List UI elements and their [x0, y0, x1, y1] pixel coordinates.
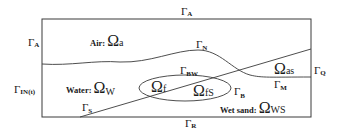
- region-wet-sand-label: Wet sand:ΩWS: [220, 99, 286, 116]
- boundary-inflow-label: ΓIN(t): [14, 83, 36, 96]
- boundary-right-label: ΓQ: [314, 64, 326, 77]
- interface-b-label: ΓB: [234, 85, 245, 100]
- boundary-bottom-label: ΓR: [185, 117, 197, 130]
- region-fish-sand-label: ΩfS: [193, 82, 214, 99]
- region-air-sand-label: Ωas: [274, 60, 294, 77]
- boundary-top-label: ΓA: [181, 5, 192, 18]
- interface-n-label: ΓN: [196, 38, 207, 52]
- interface-m-label: ΓM: [274, 78, 287, 92]
- region-water-label: Water:ΩW: [66, 79, 115, 97]
- boundary-left-top-label: ΓA: [28, 36, 39, 49]
- region-fish-label: Ωf: [151, 78, 167, 95]
- interface-s-label: ΓS: [82, 101, 92, 115]
- interface-n-curve: [42, 50, 311, 77]
- domain-diagram: ΓA ΓA Air:Ωa ΓN ΓBW Ωas ΓQ ΓIN(t) Water:…: [0, 0, 345, 132]
- region-air-label: Air:Ωa: [90, 32, 124, 49]
- interface-bw-label: ΓBW: [180, 64, 198, 78]
